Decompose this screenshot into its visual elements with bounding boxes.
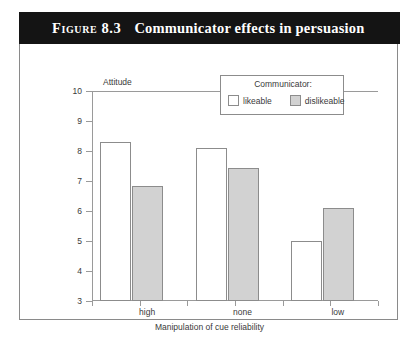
y-tick <box>86 151 93 152</box>
figure-title-banner: Figure 8.3Communicator effects in persua… <box>19 12 400 44</box>
x-tick <box>140 301 141 306</box>
x-tick-label-none: none <box>233 307 252 317</box>
x-tick <box>235 301 236 306</box>
y-tick-label: 9 <box>62 116 82 126</box>
x-tick-label-low: low <box>331 307 344 317</box>
chart-plot-area: Attitude 345678910 highnonelow Manipulat… <box>20 45 399 320</box>
y-tick <box>86 181 93 182</box>
chart-legend: Communicator: likeable dislikeable <box>220 75 344 115</box>
bar-none-dislikeable <box>228 168 259 302</box>
y-tick-label: 6 <box>62 206 82 216</box>
legend-items: likeable dislikeable <box>228 95 345 106</box>
bar-none-likeable <box>196 148 227 301</box>
y-tick <box>86 211 93 212</box>
y-axis-label: Attitude <box>103 77 132 87</box>
y-tick <box>86 91 93 92</box>
figure-number: Figure 8.3 <box>52 20 121 36</box>
figure-title-text: Figure 8.3Communicator effects in persua… <box>19 20 364 37</box>
y-tick-label: 8 <box>62 146 82 156</box>
y-tick-label: 10 <box>62 86 82 96</box>
x-tick <box>378 301 379 306</box>
x-axis-label: Manipulation of cue reliability <box>20 322 399 332</box>
bar-high-dislikeable <box>132 186 163 302</box>
x-tick <box>187 301 188 306</box>
x-tick <box>283 301 284 306</box>
y-tick-label: 5 <box>62 236 82 246</box>
x-tick-label-high: high <box>139 307 155 317</box>
legend-swatch-likeable <box>228 95 239 106</box>
y-tick <box>86 121 93 122</box>
figure-title: Communicator effects in persuasion <box>134 20 364 36</box>
legend-label-likeable: likeable <box>243 96 272 106</box>
y-tick-label: 4 <box>62 266 82 276</box>
bar-low-likeable <box>291 241 322 301</box>
legend-swatch-dislikeable <box>290 95 301 106</box>
legend-item-likeable: likeable <box>228 95 272 106</box>
y-tick <box>86 271 93 272</box>
x-tick <box>330 301 331 306</box>
y-tick <box>86 241 93 242</box>
y-tick-label: 3 <box>62 296 82 306</box>
figure-container: Figure 8.3Communicator effects in persua… <box>19 12 398 320</box>
bar-low-dislikeable <box>323 208 354 301</box>
y-tick-label: 7 <box>62 176 82 186</box>
x-tick <box>92 301 93 306</box>
bar-high-likeable <box>100 142 131 301</box>
legend-title: Communicator: <box>221 79 345 89</box>
legend-label-dislikeable: dislikeable <box>305 96 345 106</box>
legend-item-dislikeable: dislikeable <box>290 95 345 106</box>
